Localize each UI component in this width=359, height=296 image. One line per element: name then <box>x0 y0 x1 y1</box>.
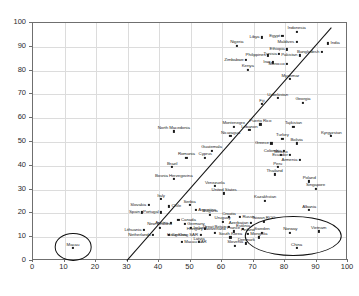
y-axis-tick-mark <box>29 141 32 142</box>
data-point[interactable] <box>278 53 280 55</box>
data-point[interactable] <box>273 173 275 175</box>
y-axis-tick-mark <box>29 93 32 94</box>
y-axis-tick-mark <box>29 70 32 71</box>
y-axis-tick-mark <box>29 236 32 237</box>
x-axis-tick-mark <box>95 259 96 262</box>
gridline-horizontal <box>33 213 346 214</box>
data-point[interactable] <box>223 192 225 194</box>
data-point[interactable] <box>314 188 316 190</box>
x-axis-tick-label: 100 <box>341 263 354 271</box>
data-point[interactable] <box>289 78 291 80</box>
data-point[interactable] <box>299 159 301 161</box>
data-point[interactable] <box>209 214 211 216</box>
data-point[interactable] <box>184 223 186 225</box>
data-point-label: Poland <box>303 176 316 180</box>
data-point-label: Thailand <box>267 169 283 173</box>
x-axis-tick-mark <box>347 259 348 262</box>
data-point[interactable] <box>248 129 250 131</box>
data-point[interactable] <box>264 199 266 201</box>
data-point[interactable] <box>173 178 175 180</box>
data-point[interactable] <box>160 198 162 200</box>
data-point[interactable] <box>152 234 154 236</box>
x-axis-tick-label: 70 <box>248 263 256 271</box>
data-point[interactable] <box>234 245 236 247</box>
data-point[interactable] <box>321 51 323 53</box>
data-point-label: Bolivia <box>290 138 302 142</box>
data-point-label: Zimbabwe <box>224 58 243 62</box>
data-point[interactable] <box>292 126 294 128</box>
data-point[interactable] <box>214 232 216 234</box>
data-point[interactable] <box>185 157 187 159</box>
x-axis-tick-label: 30 <box>122 263 130 271</box>
data-point[interactable] <box>177 218 179 220</box>
data-point[interactable] <box>229 236 231 238</box>
data-point-label: South Korea <box>219 232 242 236</box>
data-point-label: Egypt <box>269 34 280 38</box>
y-axis-tick-label: 60 <box>2 113 26 121</box>
data-point-label: Cyprus <box>199 152 212 156</box>
data-point[interactable] <box>168 205 170 207</box>
data-point[interactable] <box>281 138 283 140</box>
data-point[interactable] <box>270 142 272 144</box>
data-point[interactable] <box>229 135 231 137</box>
data-point[interactable] <box>259 123 261 125</box>
data-point[interactable] <box>261 103 263 105</box>
data-point[interactable] <box>242 228 244 230</box>
y-axis-tick-mark <box>29 22 32 23</box>
data-point[interactable] <box>158 227 160 229</box>
data-point-label: Maldives <box>278 40 295 44</box>
data-point[interactable] <box>330 135 332 137</box>
y-axis-tick-label: 50 <box>2 137 26 145</box>
data-point[interactable] <box>204 157 206 159</box>
data-point[interactable] <box>296 41 298 43</box>
scatter-chart: 0102030405060708090100010203040506070809… <box>0 0 359 296</box>
x-axis-tick-label: 90 <box>311 263 319 271</box>
data-point[interactable] <box>277 97 279 99</box>
data-point[interactable] <box>247 69 249 71</box>
data-point[interactable] <box>181 241 183 243</box>
data-point-label: Mexico <box>274 150 287 154</box>
data-point[interactable] <box>296 142 298 144</box>
data-point[interactable] <box>296 30 298 32</box>
data-point-label: Greece <box>255 141 269 145</box>
data-point[interactable] <box>327 42 329 44</box>
data-point[interactable] <box>239 216 241 218</box>
data-point[interactable] <box>250 222 252 224</box>
data-point[interactable] <box>195 209 197 211</box>
data-point-label: Italy <box>157 194 165 198</box>
data-point-label: Bulgaria <box>202 209 217 213</box>
data-point[interactable] <box>236 45 238 47</box>
data-point[interactable] <box>245 59 247 61</box>
y-axis-tick-label: 70 <box>2 90 26 98</box>
data-point[interactable] <box>168 234 170 236</box>
data-point[interactable] <box>147 204 149 206</box>
data-point[interactable] <box>171 166 173 168</box>
chart-header-blank <box>0 0 359 16</box>
gridline-vertical <box>65 23 66 259</box>
data-point[interactable] <box>188 204 190 206</box>
data-point[interactable] <box>261 36 263 38</box>
data-point[interactable] <box>173 130 175 132</box>
data-point-label: Portugal <box>143 210 159 214</box>
data-point-label: Nigeria <box>230 40 243 44</box>
data-point-label: Georgia <box>295 97 310 101</box>
y-axis-tick-label: 20 <box>2 209 26 217</box>
data-point-label: Serbia <box>183 200 195 204</box>
data-point-label: India <box>331 41 340 45</box>
x-axis-tick-mark <box>158 259 159 262</box>
data-point[interactable] <box>286 48 288 50</box>
data-point[interactable] <box>160 211 162 213</box>
data-point[interactable] <box>233 126 235 128</box>
data-point[interactable] <box>299 54 301 56</box>
data-point-label: Fiji <box>259 99 264 103</box>
data-point[interactable] <box>281 35 283 37</box>
data-point[interactable] <box>302 102 304 104</box>
data-point[interactable] <box>308 209 310 211</box>
data-point-label: Libya <box>249 35 259 39</box>
data-point-label: Nicaragua <box>221 131 240 135</box>
data-point[interactable] <box>286 63 288 65</box>
data-point-label: United States <box>212 188 237 192</box>
data-point[interactable] <box>204 228 206 230</box>
x-axis-tick-label: 80 <box>280 263 288 271</box>
data-point-label: Macau SAR <box>184 240 207 244</box>
